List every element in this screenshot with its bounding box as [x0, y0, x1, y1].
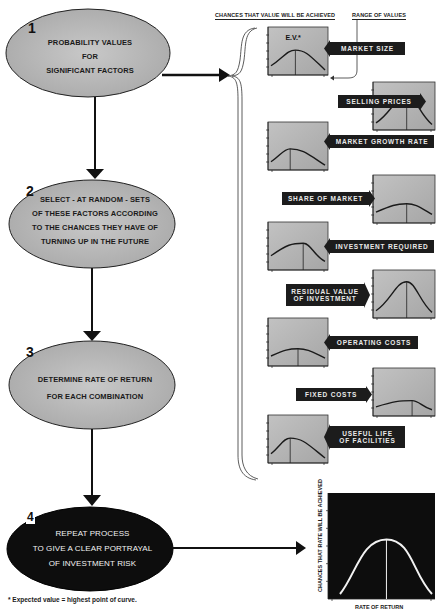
chart-frame [373, 368, 435, 416]
step-1-line: PROBABILITY VALUES [20, 36, 160, 50]
factor-label-text: OPERATING COSTS [337, 339, 411, 346]
flow-arrow-1-2 [86, 97, 104, 179]
flow-arrow-2-3 [83, 268, 101, 341]
range-of-values-header: RANGE OF VALUES [352, 12, 406, 20]
step-4-line: OF INVESTMENT RISK [20, 556, 165, 571]
factor-label-line: OF INVESTMENT [291, 295, 359, 302]
step-1-line: SIGNIFICANT FACTORS [20, 64, 160, 78]
factor-label: MARKET SIZE [330, 42, 405, 55]
step-2-line: OF THESE FACTORS ACCORDING [20, 207, 170, 221]
factor-chart [266, 415, 328, 465]
chart-frame [373, 175, 435, 223]
factor-label-line: MARKET SIZE [341, 45, 394, 52]
factor-label-line: OF FACILITIES [339, 437, 395, 444]
factor-label-line: USEFUL LIFE [339, 430, 395, 437]
chart-frame [373, 270, 435, 318]
step-3-line: FOR EACH COMBINATION [20, 388, 170, 405]
flow-arrow-3-4 [83, 429, 101, 506]
step-3-line: DETERMINE RATE OF RETURN [20, 371, 170, 388]
step-1-number: 1 [28, 20, 36, 36]
factor-label: INVESTMENT REQUIRED [330, 240, 434, 253]
result-x-axis-label: RATE OF RETURN [355, 604, 403, 610]
factor-label-text: SELLING PRICES [346, 98, 411, 105]
ev-label: E.V.* [285, 34, 301, 41]
factor-label: FIXED COSTS [296, 388, 366, 401]
factor-label: USEFUL LIFEOF FACILITIES [330, 426, 405, 448]
step-2-line: TURNING UP IN THE FUTURE [20, 235, 170, 249]
factor-label-text: MARKET SIZE [341, 45, 394, 52]
step-4-number: 4 [26, 511, 35, 524]
factor-label-text: INVESTMENT REQUIRED [335, 243, 428, 250]
arrow-to-result [173, 541, 306, 555]
step-3-text: DETERMINE RATE OF RETURN FOR EACH COMBIN… [20, 371, 170, 405]
factor-label-line: INVESTMENT REQUIRED [335, 243, 428, 250]
factor-label-text: SHARE OF MARKET [288, 195, 363, 202]
step-2-text: SELECT - AT RANDOM - SETS OF THESE FACTO… [20, 193, 170, 249]
label-arrowhead [364, 282, 370, 308]
factor-chart [266, 122, 328, 172]
chart-frame [268, 222, 328, 270]
factors-brace [228, 28, 258, 480]
factor-label-text: RESIDUAL VALUEOF INVESTMENT [291, 288, 359, 302]
result-chart [326, 493, 435, 601]
factor-label: SHARE OF MARKET [282, 192, 369, 205]
range-connector-arrow [330, 76, 334, 81]
step-3-number: 3 [26, 344, 34, 360]
factor-chart: E.V.* [266, 27, 328, 77]
factor-label: SELLING PRICES [338, 95, 420, 108]
label-arrowhead [366, 386, 372, 403]
chances-header: CHANCES THAT VALUE WILL BE ACHIEVED [215, 12, 335, 20]
factor-chart [266, 318, 328, 368]
monte-carlo-flow-diagram: E.V.* [0, 0, 443, 616]
step-1-text: PROBABILITY VALUES FOR SIGNIFICANT FACTO… [20, 36, 160, 78]
step-2-line: TO THE CHANCES THEY HAVE OF [20, 221, 170, 235]
arrow-to-factors [162, 68, 230, 82]
factor-chart [266, 222, 328, 272]
factor-chart [371, 175, 435, 225]
factor-label: OPERATING COSTS [330, 336, 418, 349]
factor-label-line: SELLING PRICES [346, 98, 411, 105]
result-chart-frame [328, 493, 435, 599]
factor-chart [371, 270, 435, 320]
step-2-line: SELECT - AT RANDOM - SETS [20, 193, 170, 207]
step-4-line: REPEAT PROCESS [20, 526, 165, 541]
step-4-text: REPEAT PROCESS TO GIVE A CLEAR PORTRAYAL… [20, 526, 165, 571]
factor-label-line: SHARE OF MARKET [288, 195, 363, 202]
factor-label: RESIDUAL VALUEOF INVESTMENT [286, 284, 364, 306]
factor-label-text: USEFUL LIFEOF FACILITIES [339, 430, 395, 444]
factor-label-line: FIXED COSTS [305, 391, 357, 398]
factor-label-line: OPERATING COSTS [337, 339, 411, 346]
factor-label-line: RESIDUAL VALUE [291, 288, 359, 295]
factor-label: MARKET GROWTH RATE [330, 135, 434, 148]
factor-label-text: FIXED COSTS [305, 391, 357, 398]
factor-label-line: MARKET GROWTH RATE [336, 138, 429, 145]
factor-label-text: MARKET GROWTH RATE [336, 138, 429, 145]
step-1-line: FOR [20, 50, 160, 64]
step-4-line: TO GIVE A CLEAR PORTRAYAL [20, 541, 165, 556]
result-y-axis-label: CHANCES THAT RATE WILL BE ACHIEVED [317, 479, 323, 592]
chart-frame [268, 122, 328, 170]
factor-chart [371, 368, 435, 418]
footnote: * Expected value = highest point of curv… [8, 596, 137, 603]
